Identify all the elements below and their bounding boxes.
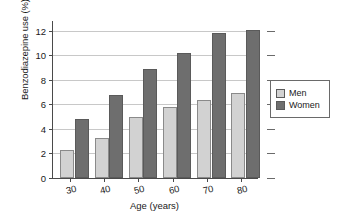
- legend-swatch-women-icon: [276, 101, 285, 110]
- x-tick-mark: [104, 178, 105, 182]
- x-tick-mark: [207, 178, 208, 182]
- bar-group: [195, 21, 219, 178]
- benzodiazepine-use-bar-chart: Benzodiazepine use (%) 024681012 3040506…: [0, 0, 340, 223]
- x-tick-label: 30: [65, 183, 78, 196]
- legend-label-women: Women: [289, 100, 320, 110]
- y-tick-label: 8: [41, 74, 46, 85]
- y-tick-mark-right: [267, 178, 275, 179]
- legend-item-women: Women: [276, 100, 329, 110]
- bar-men-40: [95, 138, 109, 178]
- bar-women-30: [75, 119, 89, 178]
- bar-group: [127, 21, 151, 178]
- legend-swatch-men-icon: [276, 89, 285, 98]
- x-tick-label: 50: [133, 183, 146, 196]
- bar-women-40: [109, 95, 123, 178]
- bar-women-80: [246, 30, 260, 178]
- x-tick-mark: [70, 178, 71, 182]
- bar-men-50: [129, 117, 143, 178]
- y-tick-label: 12: [35, 25, 46, 36]
- bar-group: [93, 21, 117, 178]
- bar-women-60: [177, 53, 191, 178]
- x-tick-label: 80: [236, 183, 249, 196]
- legend-item-men: Men: [276, 88, 329, 98]
- x-axis-title: Age (years): [52, 200, 257, 211]
- y-tick-label: 10: [35, 50, 46, 61]
- y-tick-label: 6: [41, 99, 46, 110]
- y-axis-title: Benzodiazepine use (%): [19, 0, 30, 130]
- y-tick-label: 4: [41, 123, 46, 134]
- bar-men-80: [231, 93, 245, 178]
- x-tick-label: 70: [202, 183, 215, 196]
- y-tick-label: 2: [41, 148, 46, 159]
- x-tick-mark: [241, 178, 242, 182]
- plot-area: 024681012 304050607080: [52, 21, 258, 179]
- legend: Men Women: [270, 80, 330, 118]
- x-tick-mark: [138, 178, 139, 182]
- x-tick-mark: [173, 178, 174, 182]
- y-tick-mark-right: [267, 153, 275, 154]
- y-tick-label: 0: [41, 173, 46, 184]
- y-tick-mark-right: [267, 129, 275, 130]
- bar-women-50: [143, 69, 157, 178]
- bar-men-30: [60, 150, 74, 178]
- bar-women-70: [212, 33, 226, 178]
- x-tick-label: 60: [167, 183, 180, 196]
- bar-group: [161, 21, 185, 178]
- x-tick-label: 40: [99, 183, 112, 196]
- bar-group: [58, 21, 82, 178]
- bar-group: [229, 21, 253, 178]
- y-tick-mark-right: [267, 31, 275, 32]
- bars-layer: [53, 21, 258, 178]
- y-tick-mark: [49, 178, 53, 179]
- bar-men-70: [197, 100, 211, 179]
- y-tick-mark-right: [267, 55, 275, 56]
- bar-men-60: [163, 107, 177, 178]
- legend-label-men: Men: [289, 88, 307, 98]
